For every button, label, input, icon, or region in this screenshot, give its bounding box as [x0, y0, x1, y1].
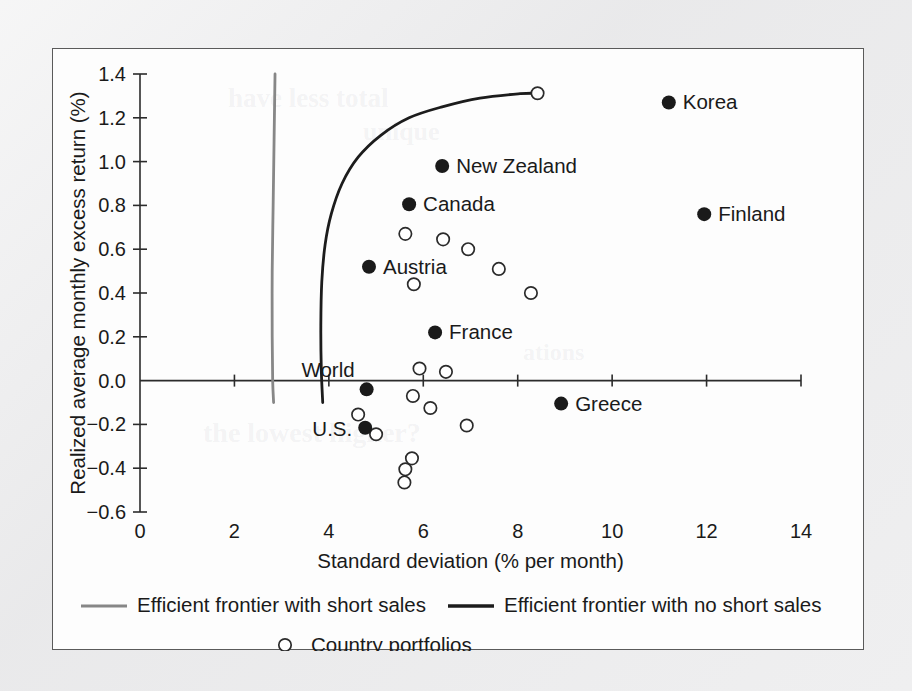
x-tick-label-2: 2 — [229, 520, 240, 542]
country-portfolio-point — [437, 233, 449, 245]
country-portfolio-point — [398, 476, 410, 488]
point-label-france: France — [449, 320, 513, 343]
legend-label-country-portfolios: Country portfolios — [311, 633, 472, 651]
y-tick-group: −0.6−0.4−0.20.00.20.40.60.81.01.21.4 — [87, 63, 147, 523]
x-tick-group: 02468101214 — [134, 375, 812, 542]
labeled-point-new-zealand — [435, 159, 449, 173]
labeled-point-finland — [697, 207, 711, 221]
point-label-greece: Greece — [575, 392, 642, 415]
legend-group: Efficient frontier with short salesEffic… — [81, 593, 822, 651]
country-portfolio-point — [399, 228, 411, 240]
labeled-point-world — [360, 382, 374, 396]
labeled-point-canada — [402, 197, 416, 211]
labeled-point-korea — [662, 95, 676, 109]
figure-panel: have less total unique the lowest higher… — [52, 48, 864, 650]
country-portfolio-point — [461, 419, 473, 431]
country-portfolio-point — [462, 243, 474, 255]
labeled-point-france — [428, 325, 442, 339]
x-tick-label-10: 10 — [601, 520, 623, 542]
x-tick-label-4: 4 — [323, 520, 334, 542]
y-tick-label-0.4: 0.4 — [98, 282, 126, 304]
labeled-point-u-s- — [358, 421, 372, 435]
x-tick-label-6: 6 — [418, 520, 429, 542]
country-portfolio-point — [493, 263, 505, 275]
country-portfolio-point — [352, 408, 364, 420]
legend-swatch-country-portfolios — [279, 639, 291, 651]
country-portfolio-point — [424, 402, 436, 414]
x-axis-title: Standard deviation (% per month) — [317, 549, 624, 572]
frontier-with-short-sales-line — [272, 74, 275, 403]
country-portfolio-point — [407, 390, 419, 402]
y-tick-label-0.6: 0.6 — [98, 238, 126, 260]
y-tick-label-0.2: 0.2 — [98, 326, 126, 348]
scatter-plot: 02468101214 −0.6−0.4−0.20.00.20.40.60.81… — [53, 49, 865, 651]
country-portfolio-point — [440, 366, 452, 378]
point-label-u-s-: U.S. — [312, 417, 352, 440]
labeled-point-austria — [362, 260, 376, 274]
y-tick-label-0.8: 0.8 — [98, 194, 126, 216]
y-tick-label-1.4: 1.4 — [98, 63, 126, 85]
point-label-world: World — [301, 358, 354, 381]
point-label-korea: Korea — [683, 90, 738, 113]
y-tick-label-0: 0.0 — [98, 370, 126, 392]
country-portfolio-point — [413, 362, 425, 374]
country-portfolio-point — [399, 463, 411, 475]
country-portfolio-point — [531, 87, 543, 99]
country-portfolio-points-group — [352, 87, 544, 489]
point-label-canada: Canada — [423, 192, 495, 215]
y-tick-label-1: 1.0 — [98, 151, 126, 173]
point-label-austria: Austria — [383, 255, 447, 278]
x-tick-label-14: 14 — [790, 520, 812, 542]
y-tick-label--0.4: −0.4 — [87, 457, 126, 479]
axes-group — [140, 74, 801, 512]
x-tick-label-8: 8 — [512, 520, 523, 542]
labeled-country-points-group: KoreaFinlandNew ZealandCanadaAustriaFran… — [301, 90, 785, 439]
y-tick-label--0.2: −0.2 — [87, 413, 126, 435]
y-tick-label--0.6: −0.6 — [87, 501, 126, 523]
y-axis-title: Realized average monthly excess return (… — [66, 91, 89, 494]
legend-label-no-short-sales: Efficient frontier with no short sales — [504, 593, 822, 616]
point-label-finland: Finland — [718, 202, 785, 225]
frontier-no-short-sales-line — [321, 93, 538, 402]
y-tick-label-1.2: 1.2 — [98, 107, 126, 129]
country-portfolio-point — [408, 278, 420, 290]
country-portfolio-point — [525, 287, 537, 299]
x-tick-label-0: 0 — [134, 520, 145, 542]
legend-label-short-sales: Efficient frontier with short sales — [137, 593, 426, 616]
x-tick-label-12: 12 — [695, 520, 717, 542]
point-label-new-zealand: New Zealand — [456, 154, 577, 177]
labeled-point-greece — [554, 397, 568, 411]
